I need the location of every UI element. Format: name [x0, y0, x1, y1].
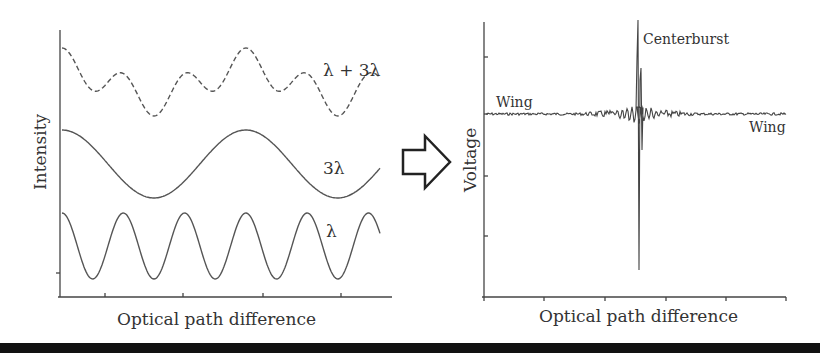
lambda-label: λ: [326, 221, 337, 241]
right-axes: [482, 22, 786, 301]
combined-label: λ + 3λ: [323, 60, 381, 80]
intensity-axis-label: Intensity: [30, 114, 50, 190]
voltage-axis-label: Voltage: [460, 128, 480, 193]
interferogram-curve: [486, 20, 786, 270]
bottom-rule: [0, 343, 820, 353]
three-lambda-label: 3λ: [323, 158, 345, 178]
right-xaxis-label: Optical path difference: [539, 306, 738, 326]
figure-canvas: λ + 3λ 3λ λ Intensity Optical path diffe…: [0, 0, 820, 353]
combined-wave-curve: [62, 48, 380, 116]
wing-left-label: Wing: [496, 94, 533, 110]
wing-right-label: Wing: [749, 119, 786, 135]
arrow-right-icon: [403, 136, 450, 188]
left-xaxis-label: Optical path difference: [117, 309, 316, 329]
centerburst-label: Centerburst: [643, 31, 729, 47]
